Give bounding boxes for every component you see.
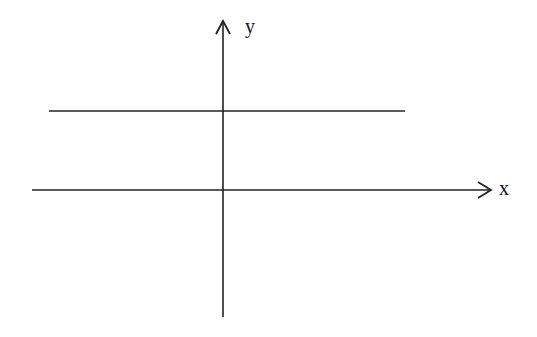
y-axis-label: y xyxy=(245,16,255,36)
coordinate-diagram xyxy=(0,0,537,337)
x-axis-label: x xyxy=(499,178,509,198)
